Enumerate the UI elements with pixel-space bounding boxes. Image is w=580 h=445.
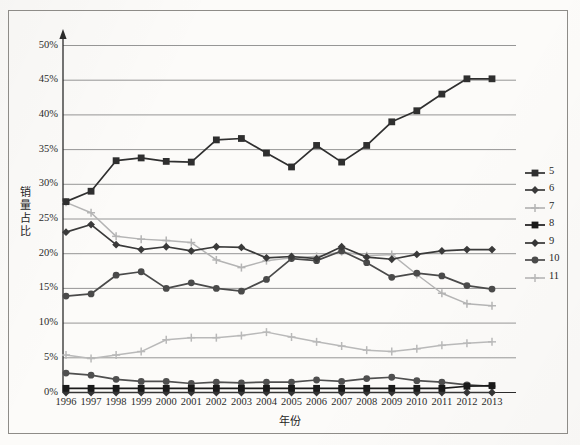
line-chart-plot bbox=[0, 0, 580, 445]
legend-label: 5 bbox=[549, 165, 554, 177]
chart-screenshot: 0%5%10%15%20%25%30%35%40%45%50% 19961997… bbox=[0, 0, 580, 445]
legend-marker-icon bbox=[524, 270, 546, 282]
legend-item-8[interactable]: 8 bbox=[524, 215, 570, 233]
legend-item-10[interactable]: 10 bbox=[524, 250, 570, 268]
legend-marker-icon bbox=[524, 182, 546, 194]
legend-item-6[interactable]: 6 bbox=[524, 180, 570, 198]
y-tick-label: 5% bbox=[20, 351, 58, 362]
legend-label: 10 bbox=[549, 252, 560, 264]
series-10b bbox=[63, 370, 496, 390]
series-layer bbox=[62, 75, 496, 396]
series-5 bbox=[63, 75, 496, 205]
legend-item-7[interactable]: 7 bbox=[524, 197, 570, 215]
legend-label: 7 bbox=[549, 200, 554, 212]
series-6 bbox=[62, 221, 496, 264]
series-8 bbox=[63, 382, 496, 392]
legend-marker-icon bbox=[524, 217, 546, 229]
y-tick-label: 35% bbox=[20, 143, 58, 154]
legend-item-11[interactable]: 11 bbox=[524, 267, 570, 285]
axis-lines bbox=[59, 29, 516, 393]
legend-item-9[interactable]: 9 bbox=[524, 232, 570, 250]
x-axis-title: 年份 bbox=[0, 412, 580, 428]
legend-marker-icon bbox=[524, 200, 546, 212]
legend-label: 11 bbox=[549, 270, 559, 282]
gridlines bbox=[63, 46, 516, 393]
series-10 bbox=[63, 248, 496, 300]
legend-marker-icon bbox=[524, 252, 546, 264]
y-tick-label: 15% bbox=[20, 281, 58, 292]
y-axis-title: 销量占比 bbox=[17, 186, 33, 238]
y-tick-label: 50% bbox=[20, 39, 58, 50]
y-tick-label: 0% bbox=[20, 386, 58, 397]
y-tick-label: 20% bbox=[20, 247, 58, 258]
legend-label: 6 bbox=[549, 182, 554, 194]
legend-item-5[interactable]: 5 bbox=[524, 162, 570, 180]
x-tick-label: 2013 bbox=[475, 396, 509, 407]
y-tick-label: 45% bbox=[20, 73, 58, 84]
legend-marker-icon bbox=[524, 165, 546, 177]
y-tick-label: 10% bbox=[20, 316, 58, 327]
series-11 bbox=[62, 328, 496, 362]
legend-marker-icon bbox=[524, 235, 546, 247]
chart-legend: 567891011 bbox=[524, 162, 570, 285]
legend-label: 9 bbox=[549, 235, 554, 247]
legend-label: 8 bbox=[549, 217, 554, 229]
y-tick-label: 40% bbox=[20, 108, 58, 119]
